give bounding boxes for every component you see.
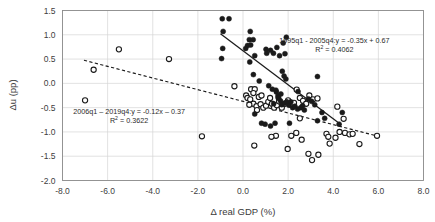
data-point-open [116,47,121,52]
y-tick-label: -1.5 [41,151,56,161]
x-axis-tick-labels: -8.0-6.0-4.0-2.00.02.04.06.08.0 [55,186,430,196]
data-point-filled [287,121,292,126]
data-point-filled [251,72,256,77]
data-point-filled [315,74,320,79]
data-point-filled [337,122,342,127]
data-point-filled [273,121,278,126]
data-point-filled [243,46,248,51]
data-point-open [327,141,332,146]
data-point-open [247,102,252,107]
data-point-open [326,134,331,139]
data-point-open [199,134,204,139]
data-point-filled [268,124,273,129]
annotation-period-2-r2: R2 = 0.3622 [110,115,148,125]
data-point-open [297,116,302,121]
data-point-open [374,133,379,138]
data-point-filled [252,53,257,58]
y-tick-label: 0.0 [44,78,56,88]
data-point-filled [251,37,256,42]
data-point-filled [288,99,293,104]
scatter-chart: 1.51.00.50.0-0.5-1.0-1.5-2.0 -8.0-6.0-4.… [0,0,435,222]
data-point-open [299,137,304,142]
data-point-filled [219,56,224,61]
data-point-filled [220,16,225,21]
x-tick-label: 2.0 [282,186,294,196]
data-point-filled [340,110,345,115]
x-tick-label: -2.0 [191,186,206,196]
data-point-open [316,152,321,157]
data-point-filled [221,29,226,34]
data-point-open [232,84,237,89]
annotation-period-2-equation: 2006q1 – 2019q4:y = -0.12x – 0.37 [73,107,185,116]
y-tick-label: -1.0 [41,127,56,137]
data-point-filled [274,45,279,50]
y-tick-label: 1.5 [44,6,56,16]
data-point-filled [315,118,320,123]
data-point-filled [302,108,307,113]
data-point-filled [247,59,252,64]
data-point-open [82,98,87,103]
y-tick-label: -0.5 [41,103,56,113]
data-point-filled [227,16,232,21]
data-point-filled [271,51,276,56]
data-point-filled [252,111,257,116]
x-tick-label: 8.0 [418,186,430,196]
data-point-filled [263,122,268,127]
y-tick-label: -2.0 [41,176,56,186]
y-axis-tick-labels: 1.51.00.50.0-0.5-1.0-1.5-2.0 [41,6,56,186]
data-point-open [285,146,290,151]
data-point-open [252,143,257,148]
series-2006q1-2019q4-points [82,47,379,163]
data-point-open [335,104,340,109]
data-point-open [251,90,256,95]
data-point-open [333,135,338,140]
data-point-open [289,133,294,138]
y-axis-title: Δu (pp) [7,79,18,110]
data-point-open [267,95,272,100]
x-tick-label: -4.0 [145,186,160,196]
x-tick-label: 4.0 [327,186,339,196]
data-point-filled [257,78,262,83]
data-point-filled [280,69,285,74]
data-point-filled [220,46,225,51]
data-point-filled [283,76,288,81]
data-point-open [269,134,274,139]
y-tick-label: 0.5 [44,54,56,64]
data-point-filled [273,88,278,93]
x-axis-title: Δ real GDP (%) [211,206,276,217]
data-point-filled [276,95,281,100]
x-tick-label: 0.0 [237,186,249,196]
data-point-filled [319,110,324,115]
data-point-filled [277,53,282,58]
x-tick-label: -6.0 [100,186,115,196]
data-point-open [294,130,299,135]
data-point-filled [271,101,276,106]
y-tick-label: 1.0 [44,30,56,40]
data-point-open [309,158,314,163]
annotation-period-1-r2: R2 = 0.4062 [315,44,353,54]
data-point-open [259,93,264,98]
annotation-period-1-equation: 1995q1 - 2005q4:y = -0.35x + 0.67 [279,36,389,45]
data-point-filled [296,89,301,94]
data-point-filled [248,42,253,47]
data-point-open [357,141,362,146]
chart-canvas: 1.51.00.50.0-0.5-1.0-1.5-2.0 -8.0-6.0-4.… [0,0,435,222]
x-tick-label: -8.0 [55,186,70,196]
data-point-open [306,151,311,156]
x-tick-label: 6.0 [372,186,384,196]
data-point-filled [248,29,253,34]
data-point-open [315,96,320,101]
data-point-open [341,116,346,121]
data-point-filled [322,116,327,121]
data-point-open [337,129,342,134]
data-point-open [350,131,355,136]
data-point-open [166,56,171,61]
data-point-filled [264,51,269,56]
data-point-filled [282,51,287,56]
data-point-filled [312,102,317,107]
data-point-open [91,67,96,72]
